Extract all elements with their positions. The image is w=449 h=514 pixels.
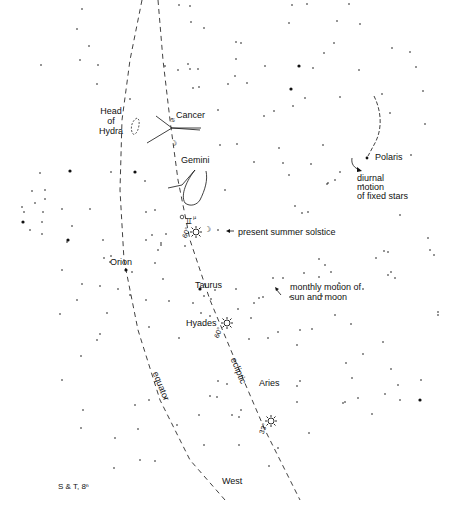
star	[160, 244, 162, 246]
star	[40, 64, 42, 66]
star	[203, 444, 205, 446]
star	[165, 233, 167, 235]
label-taurus: Taurus	[195, 280, 222, 290]
star	[339, 96, 341, 98]
star	[299, 329, 301, 331]
label-gemini: Gemini	[181, 155, 210, 165]
star	[103, 257, 105, 259]
label-diurnal-motion: diurnal motion of fixed stars	[357, 174, 408, 201]
star	[382, 341, 384, 343]
star	[59, 313, 61, 315]
star	[324, 264, 326, 266]
star	[296, 344, 298, 346]
solstice-arrowhead	[226, 229, 230, 233]
star	[301, 212, 303, 214]
star	[129, 98, 131, 100]
mu-label: μ	[193, 214, 197, 221]
star	[41, 221, 43, 223]
star	[81, 283, 83, 285]
label-cancer: Cancer	[176, 110, 205, 120]
star	[177, 69, 179, 71]
star	[151, 234, 153, 236]
star	[327, 182, 329, 184]
star	[415, 66, 417, 68]
star	[168, 300, 170, 302]
star	[96, 339, 98, 341]
star	[131, 271, 133, 273]
star	[41, 233, 43, 235]
hydra-line-3: Hydra	[98, 126, 124, 136]
star	[80, 427, 82, 429]
star	[133, 170, 136, 173]
star	[217, 229, 219, 231]
star	[89, 208, 91, 210]
star	[21, 206, 23, 208]
star	[210, 298, 212, 300]
star	[44, 198, 46, 200]
star	[235, 58, 237, 60]
star	[240, 409, 242, 411]
star	[272, 277, 274, 279]
constellation-lines	[147, 116, 201, 188]
star	[371, 413, 373, 415]
star	[422, 90, 424, 92]
star	[358, 69, 360, 71]
star	[292, 105, 294, 107]
star	[350, 323, 352, 325]
star	[238, 416, 240, 418]
star	[217, 109, 219, 111]
star	[216, 396, 218, 398]
star	[391, 47, 393, 49]
star	[264, 65, 266, 67]
star	[389, 112, 391, 114]
star	[162, 278, 164, 280]
small-sun-symbol	[180, 215, 184, 219]
star	[21, 220, 24, 223]
star	[81, 8, 83, 10]
star	[44, 189, 46, 191]
star	[139, 459, 141, 461]
star	[418, 398, 421, 401]
star	[23, 211, 25, 213]
star	[362, 353, 364, 355]
sun-hyades-icon	[221, 317, 233, 329]
star	[381, 93, 383, 95]
star	[129, 294, 131, 296]
diurnal-motion-arrow	[352, 158, 360, 170]
star	[333, 42, 335, 44]
monthly-line-2: sun and moon	[290, 292, 361, 302]
star	[424, 123, 426, 125]
star	[394, 277, 396, 279]
star	[145, 299, 147, 301]
star	[307, 211, 309, 213]
monthly-line-1: monthly motion of	[290, 282, 361, 292]
gemini-symbol-icon: ♊	[185, 217, 192, 226]
star	[189, 5, 191, 7]
star	[390, 271, 392, 273]
moon-crescent-icon: ☽	[170, 139, 177, 148]
star	[31, 190, 33, 192]
star	[110, 171, 112, 173]
star	[97, 64, 99, 66]
star	[362, 288, 364, 290]
star	[154, 262, 156, 264]
star	[79, 59, 81, 61]
star	[318, 258, 320, 260]
star-chart: ♋ ☽ ♊ μ ☽	[0, 0, 449, 514]
star	[345, 362, 347, 364]
star	[351, 377, 353, 379]
star	[311, 328, 313, 330]
label-polaris: Polaris	[375, 152, 403, 162]
star	[348, 3, 350, 5]
star	[184, 245, 186, 247]
star	[288, 174, 290, 176]
star	[282, 277, 284, 279]
star	[227, 83, 229, 85]
star	[190, 21, 192, 23]
star	[258, 297, 260, 299]
star	[187, 63, 189, 65]
star	[357, 397, 359, 399]
star	[297, 64, 300, 67]
star	[80, 355, 82, 357]
star	[262, 296, 264, 298]
